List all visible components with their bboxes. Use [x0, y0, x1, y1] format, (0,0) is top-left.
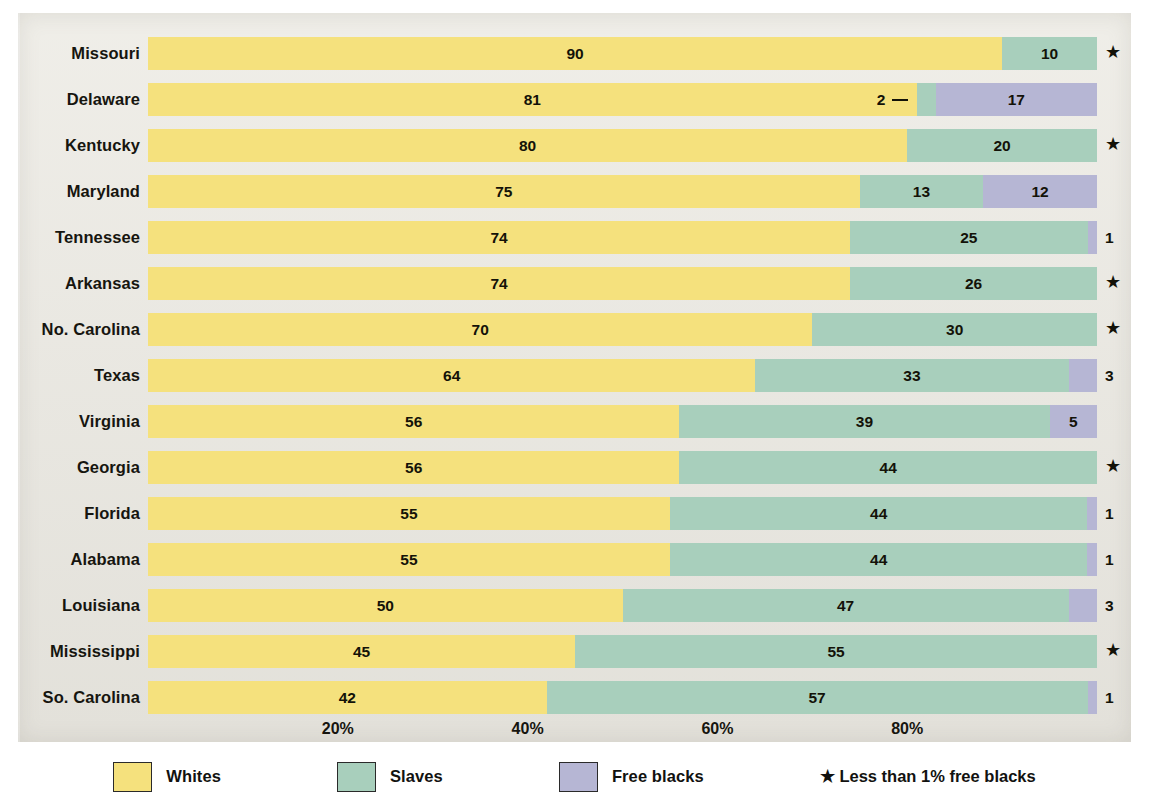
- stacked-bar: 5544: [148, 497, 1097, 530]
- bar-segment-slaves: 44: [679, 451, 1097, 484]
- callout-leader-line: [892, 99, 908, 101]
- stacked-bar: 5644: [148, 451, 1097, 484]
- stacked-bar: 8117: [148, 83, 1097, 116]
- bar-segment-slaves: 57: [547, 681, 1088, 714]
- bar-segment-slaves: 47: [623, 589, 1069, 622]
- bar-segment-whites: 70: [148, 313, 812, 346]
- row-state-label: No. Carolina: [18, 307, 140, 352]
- chart-row: Virginia56395: [18, 399, 1131, 444]
- bar-segment-whites: 74: [148, 221, 850, 254]
- segment-value: 26: [965, 276, 982, 292]
- bar-segment-slaves: 26: [850, 267, 1097, 300]
- bar-segment-free-blacks: [1087, 497, 1096, 530]
- segment-value: 42: [339, 690, 356, 706]
- bar-segment-whites: 56: [148, 451, 679, 484]
- legend-item: Slaves: [337, 762, 443, 792]
- bar-segment-whites: 42: [148, 681, 547, 714]
- outside-segment-value: 1: [1105, 543, 1114, 576]
- segment-value: 47: [837, 598, 854, 614]
- segment-value: 80: [519, 138, 536, 154]
- bar-segment-free-blacks: 17: [936, 83, 1097, 116]
- bar-segment-slaves: 55: [575, 635, 1097, 668]
- bar-segment-free-blacks: [1069, 589, 1097, 622]
- bar-segment-whites: 75: [148, 175, 860, 208]
- legend-label: Slaves: [390, 767, 443, 786]
- outside-segment-value: 3: [1105, 359, 1114, 392]
- x-axis-tick-label: 60%: [701, 720, 733, 738]
- outside-segment-value: 1: [1105, 221, 1114, 254]
- chart-row: So. Carolina42571: [18, 675, 1131, 720]
- less-than-one-percent-star: ★: [1105, 267, 1121, 300]
- bar-segment-free-blacks: [1087, 543, 1096, 576]
- less-than-one-percent-star: ★: [1105, 635, 1121, 668]
- bar-segment-whites: 55: [148, 497, 670, 530]
- bar-segment-free-blacks: [1069, 359, 1097, 392]
- segment-value: 20: [993, 138, 1010, 154]
- chart-row: Tennessee74251: [18, 215, 1131, 260]
- chart-row: Georgia5644★: [18, 445, 1131, 490]
- segment-value: 33: [903, 368, 920, 384]
- bar-segment-slaves: 20: [907, 129, 1097, 162]
- legend-item: Free blacks: [559, 762, 704, 792]
- bar-segment-whites: 90: [148, 37, 1002, 70]
- chart-row: Florida55441: [18, 491, 1131, 536]
- segment-value: 81: [524, 92, 541, 108]
- bar-segment-whites: 56: [148, 405, 679, 438]
- bar-segment-whites: 64: [148, 359, 755, 392]
- stacked-bar: 7425: [148, 221, 1097, 254]
- bar-segment-slaves: 44: [670, 497, 1088, 530]
- segment-value: 17: [1008, 92, 1025, 108]
- legend-item: Whites: [113, 762, 221, 792]
- x-axis-tick-label: 20%: [322, 720, 354, 738]
- segment-value: 74: [491, 276, 508, 292]
- bar-segment-slaves: 25: [850, 221, 1087, 254]
- outside-segment-value: 3: [1105, 589, 1114, 622]
- bar-segment-whites: 81: [148, 83, 917, 116]
- chart-row: Louisiana50473: [18, 583, 1131, 628]
- stacked-bar: 751312: [148, 175, 1097, 208]
- segment-value: 13: [913, 184, 930, 200]
- bar-segment-slaves: 44: [670, 543, 1088, 576]
- row-state-label: Texas: [18, 353, 140, 398]
- row-state-label: Maryland: [18, 169, 140, 214]
- x-axis: 20%40%60%80%: [148, 720, 1097, 742]
- bar-segment-slaves: [917, 83, 936, 116]
- row-state-label: Louisiana: [18, 583, 140, 628]
- chart-row: Maryland751312: [18, 169, 1131, 214]
- segment-value: 90: [566, 46, 583, 62]
- row-state-label: Georgia: [18, 445, 140, 490]
- callout-value: 2: [877, 91, 886, 108]
- bar-segment-whites: 74: [148, 267, 850, 300]
- chart-row: Mississippi4555★: [18, 629, 1131, 674]
- legend-label: Whites: [166, 767, 221, 786]
- bar-segment-whites: 50: [148, 589, 623, 622]
- less-than-one-percent-star: ★: [1105, 313, 1121, 346]
- row-state-label: Alabama: [18, 537, 140, 582]
- row-state-label: Delaware: [18, 77, 140, 122]
- bar-segment-slaves: 13: [860, 175, 983, 208]
- stacked-bar: 5544: [148, 543, 1097, 576]
- chart-row: Kentucky8020★: [18, 123, 1131, 168]
- row-state-label: Mississippi: [18, 629, 140, 674]
- stacked-bar: 56395: [148, 405, 1097, 438]
- segment-value: 44: [870, 506, 887, 522]
- segment-value: 50: [377, 598, 394, 614]
- bar-segment-free-blacks: [1088, 221, 1097, 254]
- legend-swatch-slaves: [337, 762, 376, 792]
- row-state-label: Tennessee: [18, 215, 140, 260]
- segment-value: 70: [472, 322, 489, 338]
- segment-value: 39: [856, 414, 873, 430]
- outside-segment-value: 1: [1105, 497, 1114, 530]
- legend-swatch-free-blacks: [559, 762, 598, 792]
- less-than-one-percent-star: ★: [1105, 129, 1121, 162]
- stacked-bar: 5047: [148, 589, 1097, 622]
- legend-footnote: ★ Less than 1% free blacks: [820, 767, 1036, 786]
- stacked-bar: 9010: [148, 37, 1097, 70]
- bar-segment-free-blacks: 5: [1050, 405, 1097, 438]
- chart-row: Arkansas7426★: [18, 261, 1131, 306]
- chart-row: Delaware81172: [18, 77, 1131, 122]
- stacked-bar: 8020: [148, 129, 1097, 162]
- legend-label: Free blacks: [612, 767, 704, 786]
- row-state-label: Florida: [18, 491, 140, 536]
- chart-row: Missouri9010★: [18, 31, 1131, 76]
